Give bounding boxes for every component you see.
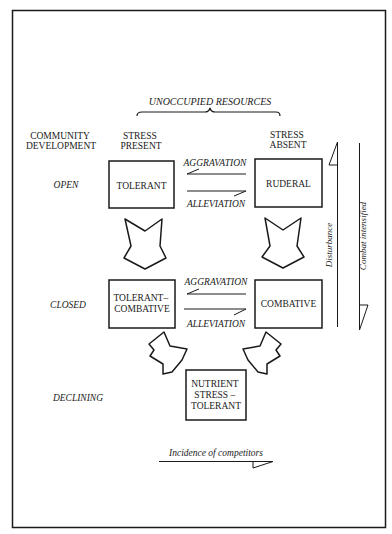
alleviation-bottom-label: ALLEVIATION: [186, 319, 246, 329]
big-down-arrow-left: [124, 219, 166, 269]
box-ruderal-label: RUDERAL: [266, 179, 311, 189]
row-label-declining: DECLINING: [52, 393, 103, 403]
alleviation-top-arrow: [187, 191, 246, 196]
aggravation-bottom-arrow: [187, 289, 246, 294]
combat-intensified-label: Combat intensified: [358, 201, 368, 270]
box-tolerant-label: TOLERANT: [117, 181, 167, 191]
combat-arrowhead: [360, 305, 369, 330]
box-nutrient-stress-tolerant-label: NUTRIENT STRESS – TOLERANT: [191, 379, 241, 411]
competitors-label: Incidence of competitors: [168, 448, 263, 458]
disturbance-label: Disturbance: [324, 223, 334, 269]
diagonal-arrow-right: [243, 332, 281, 374]
community-development-diagram: UNOCCUPIED RESOURCES COMMUNITY DEVELOPME…: [0, 0, 392, 534]
diagonal-arrow-left: [149, 332, 187, 374]
disturbance-arrowhead: [329, 142, 338, 165]
stress-absent-header: STRESS ABSENT: [270, 130, 307, 150]
aggravation-top-arrow: [187, 169, 246, 174]
alleviation-top-label: ALLEVIATION: [186, 199, 246, 209]
big-down-arrow-right: [262, 218, 304, 268]
aggravation-top-label: AGGRAVATION: [183, 158, 248, 168]
box-combative-label: COMBATIVE: [261, 299, 317, 309]
unoccupied-resources-label: UNOCCUPIED RESOURCES: [149, 96, 272, 107]
row-label-closed: CLOSED: [50, 300, 86, 310]
box-tolerant-combative-label: TOLERANT– COMBATIVE: [113, 293, 170, 314]
stress-present-header: STRESS PRESENT: [120, 131, 161, 151]
competitors-arrowhead: [253, 462, 273, 469]
resources-brace: [137, 108, 280, 116]
row-label-open: OPEN: [54, 180, 79, 190]
alleviation-bottom-arrow: [184, 309, 246, 315]
community-development-header: COMMUNITY DEVELOPMENT: [26, 131, 96, 151]
aggravation-bottom-label: AGGRAVATION: [184, 277, 249, 287]
